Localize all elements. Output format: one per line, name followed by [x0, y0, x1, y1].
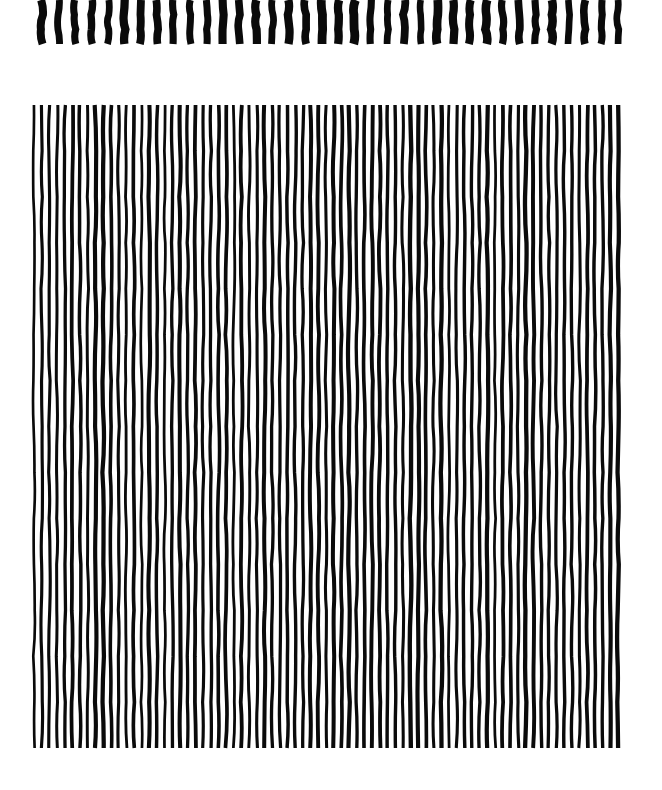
- top-stroke: [469, 0, 471, 44]
- main-line: [218, 105, 220, 748]
- main-line: [49, 105, 51, 748]
- top-stroke: [189, 0, 191, 44]
- main-line: [510, 105, 511, 748]
- main-line: [279, 105, 281, 748]
- main-line: [471, 105, 472, 748]
- main-line: [195, 105, 196, 748]
- main-line: [425, 105, 427, 748]
- main-line: [379, 105, 381, 748]
- top-stroke: [173, 0, 174, 44]
- main-line: [164, 105, 166, 748]
- top-stroke: [518, 0, 520, 44]
- main-line: [410, 105, 412, 748]
- main-line: [148, 105, 150, 748]
- main-line: [563, 105, 565, 748]
- top-stroke: [551, 0, 553, 44]
- main-line: [271, 105, 273, 748]
- top-stroke: [436, 0, 438, 44]
- main-line: [325, 105, 327, 748]
- main-line: [456, 105, 458, 748]
- top-stroke: [420, 0, 421, 44]
- main-line: [125, 105, 127, 748]
- top-stroke: [338, 0, 339, 44]
- main-line: [417, 105, 419, 748]
- main-line: [41, 105, 43, 748]
- main-line: [118, 105, 120, 748]
- top-stroke: [58, 0, 60, 44]
- top-stroke: [107, 0, 109, 44]
- main-line: [64, 105, 65, 748]
- main-line: [479, 105, 481, 748]
- main-line: [402, 105, 404, 748]
- top-stroke: [453, 0, 455, 44]
- main-line: [364, 105, 366, 748]
- main-line: [87, 105, 89, 748]
- main-line: [71, 105, 73, 748]
- top-stroke: [370, 0, 371, 44]
- main-line: [556, 105, 558, 748]
- main-line: [110, 105, 112, 748]
- top-stroke: [41, 0, 43, 44]
- main-line: [310, 105, 311, 748]
- main-line: [95, 105, 97, 748]
- main-line: [187, 105, 189, 748]
- top-stroke: [91, 0, 93, 44]
- main-line: [617, 105, 619, 748]
- top-stroke: [222, 0, 223, 44]
- main-line: [202, 105, 204, 748]
- top-stroke: [617, 0, 619, 44]
- main-line: [179, 105, 180, 748]
- main-line: [241, 105, 243, 748]
- top-stroke: [584, 0, 586, 44]
- main-line-block: [33, 105, 619, 748]
- main-line: [79, 105, 81, 748]
- main-line: [294, 105, 296, 748]
- main-line: [440, 105, 442, 748]
- main-line: [248, 105, 250, 748]
- top-stroke: [568, 0, 570, 44]
- main-line: [525, 105, 527, 748]
- main-line: [610, 105, 611, 748]
- top-stroke: [321, 0, 322, 44]
- main-line: [141, 105, 142, 748]
- top-stroke: [74, 0, 76, 44]
- top-stroke: [156, 0, 158, 44]
- main-line: [287, 105, 288, 748]
- main-line: [171, 105, 173, 748]
- main-line: [210, 105, 212, 748]
- main-line: [394, 105, 396, 748]
- top-stroke: [272, 0, 274, 44]
- main-line: [156, 105, 158, 748]
- top-stroke: [502, 0, 504, 44]
- top-stroke: [238, 0, 240, 44]
- main-line: [587, 105, 589, 748]
- main-line: [356, 105, 358, 748]
- top-stroke: [304, 0, 306, 44]
- main-line: [571, 105, 573, 748]
- main-line: [387, 105, 388, 748]
- main-line: [433, 105, 435, 748]
- main-line: [233, 105, 235, 748]
- main-line: [33, 105, 35, 748]
- main-line: [302, 105, 304, 748]
- main-line: [579, 105, 581, 748]
- main-line: [463, 105, 465, 748]
- top-stroke: [353, 0, 355, 44]
- top-stroke: [601, 0, 602, 44]
- main-line: [371, 105, 373, 748]
- main-line: [540, 105, 542, 748]
- top-stroke: [535, 0, 537, 44]
- main-line: [348, 105, 350, 748]
- main-line: [317, 105, 319, 748]
- main-line: [264, 105, 266, 748]
- main-line: [56, 105, 58, 748]
- main-line: [102, 105, 104, 748]
- top-stroke-band: [41, 0, 619, 44]
- top-stroke: [206, 0, 208, 44]
- main-line: [333, 105, 335, 748]
- main-line: [494, 105, 495, 748]
- main-line: [594, 105, 596, 748]
- main-line: [602, 105, 604, 748]
- main-line: [133, 105, 135, 748]
- main-line: [502, 105, 504, 748]
